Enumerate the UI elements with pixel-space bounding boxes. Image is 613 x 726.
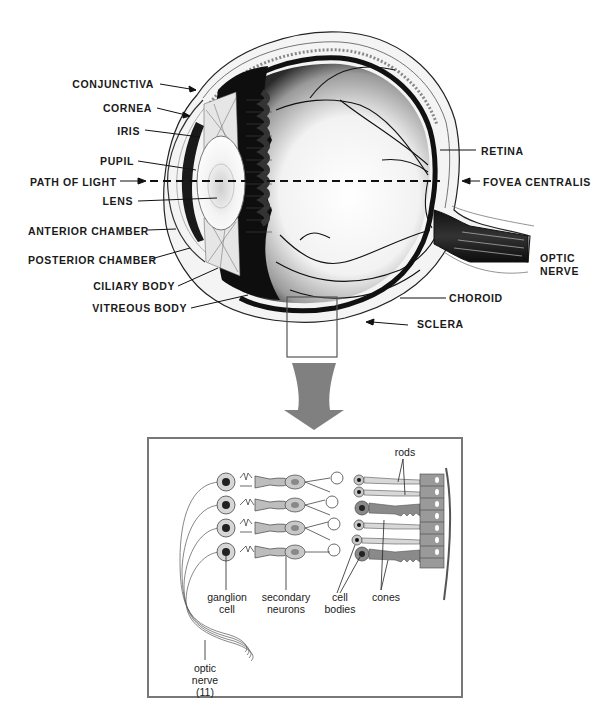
label-optic-nerve-line1: OPTIC [540, 253, 575, 264]
label-iris: IRIS [0, 126, 140, 137]
label-sclera: SCLERA [417, 319, 464, 330]
label-secondary-neurons-2: neurons [256, 603, 316, 615]
label-rods: rods [390, 446, 420, 458]
label-fovea-centralis: FOVEA CENTRALIS [483, 177, 591, 188]
label-lens: LENS [0, 196, 133, 207]
retina-inset-frame [148, 438, 462, 697]
label-secondary-neurons-1: secondary [256, 591, 316, 603]
eye-anatomy-diagram: CONJUNCTIVA CORNEA IRIS PUPIL PATH OF LI… [0, 0, 613, 726]
label-cell-bodies-1: cell [318, 591, 362, 603]
label-optic-nerve-inset-3: (11) [188, 686, 222, 698]
label-retina: RETINA [481, 146, 524, 157]
label-vitreous-body: VITREOUS BODY [0, 303, 187, 314]
label-optic-nerve-inset-2: nerve [188, 674, 222, 686]
label-cones: cones [366, 591, 406, 603]
lens-shape [197, 136, 245, 230]
optic-nerve-shape [434, 210, 528, 262]
label-path-of-light: PATH OF LIGHT [30, 177, 117, 188]
label-anterior-chamber: ANTERIOR CHAMBER [28, 226, 149, 237]
label-posterior-chamber: POSTERIOR CHAMBER [28, 255, 157, 266]
label-cornea: CORNEA [0, 103, 152, 114]
zoom-arrow-icon [284, 363, 344, 430]
label-cell-bodies-2: bodies [318, 603, 362, 615]
label-optic-nerve-inset-1: optic [188, 662, 222, 674]
label-ganglion-cell-2: cell [200, 603, 254, 615]
label-ganglion-cell-1: ganglion [200, 591, 254, 603]
label-choroid: CHOROID [449, 293, 503, 304]
label-pupil: PUPIL [0, 156, 134, 167]
label-optic-nerve-line2: NERVE [540, 266, 579, 277]
label-conjunctiva: CONJUNCTIVA [0, 79, 154, 90]
label-ciliary-body: CILIARY BODY [0, 281, 175, 292]
